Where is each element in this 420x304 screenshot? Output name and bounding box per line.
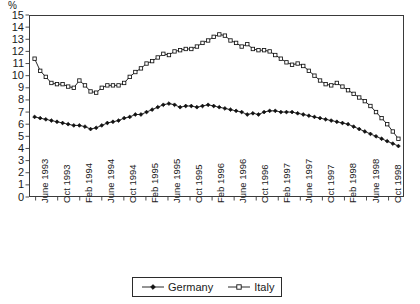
x-tick-label-oct-1993: Oct 1993 xyxy=(62,164,72,203)
chart-legend: GermanyItaly xyxy=(132,277,282,297)
x-tick-label-oct-1994: Oct 1994 xyxy=(128,164,138,203)
legend-item-germany: Germany xyxy=(141,282,213,293)
legend-item-italy: Italy xyxy=(227,282,274,293)
filled-diamond-icon xyxy=(141,282,165,292)
x-tick-label-june-1996: June 1996 xyxy=(238,159,248,203)
x-tick-label-feb-1994: Feb 1994 xyxy=(84,163,94,203)
x-tick-label-feb-1997: Feb 1997 xyxy=(282,163,292,203)
legend-label: Italy xyxy=(254,282,274,293)
x-tick-label-oct-1997: Oct 1997 xyxy=(326,164,336,203)
open-square-icon xyxy=(227,282,251,292)
legend-label: Germany xyxy=(168,282,213,293)
x-tick-label-june-1998: June 1998 xyxy=(371,159,381,203)
x-tick-label-june-1997: June 1997 xyxy=(304,159,314,203)
x-tick-label-feb-1998: Feb 1998 xyxy=(348,163,358,203)
x-tick-label-oct-1998: Oct 1998 xyxy=(393,164,403,203)
chart-container: % 0123456789101112131415 June 1993Oct 19… xyxy=(0,0,420,304)
x-tick-label-oct-1995: Oct 1995 xyxy=(194,164,204,203)
x-tick-label-june-1995: June 1995 xyxy=(172,159,182,203)
x-tick-label-june-1993: June 1993 xyxy=(40,159,50,203)
x-tick-label-feb-1996: Feb 1996 xyxy=(216,163,226,203)
x-tick-label-feb-1995: Feb 1995 xyxy=(150,163,160,203)
x-tick-label-oct-1996: Oct 1996 xyxy=(260,164,270,203)
x-tick-label-june-1994: June 1994 xyxy=(106,159,116,203)
series-lines xyxy=(0,0,420,304)
